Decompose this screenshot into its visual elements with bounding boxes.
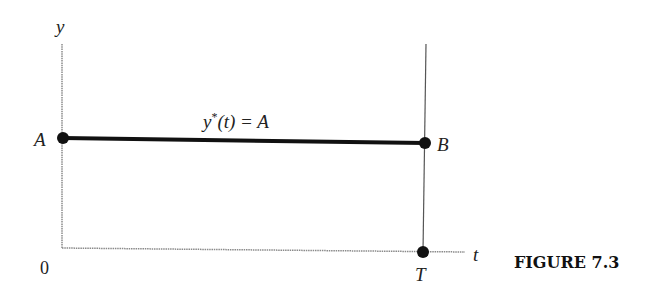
point-b-label: B <box>437 134 449 155</box>
curve-label: y*(t) = A <box>201 110 269 133</box>
figure-caption: FIGURE 7.3 <box>514 253 619 272</box>
t-axis <box>62 248 465 252</box>
point-a-label: A <box>32 129 46 150</box>
point-t-dot <box>417 246 429 258</box>
t-axis-label: t <box>473 244 479 265</box>
point-t-label: T <box>415 264 427 285</box>
point-a-dot <box>57 132 69 144</box>
y-axis-label: y <box>54 16 65 37</box>
origin-label: 0 <box>40 258 49 278</box>
optimal-path-line <box>63 138 425 143</box>
point-b-dot <box>419 137 431 149</box>
figure-diagram: y t 0 A B T y*(t) = A FIGURE 7.3 <box>0 0 671 302</box>
